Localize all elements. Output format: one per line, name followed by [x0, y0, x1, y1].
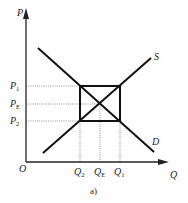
- price-label-p2: P2: [9, 115, 19, 127]
- quantity-axis-label: Q: [170, 169, 178, 180]
- price-axis-label: P: [16, 7, 23, 18]
- price-label-p1: P1: [9, 80, 19, 92]
- price-axis-arrow-icon: [23, 8, 29, 19]
- quantity-label-q1: Q1: [114, 166, 124, 178]
- supply-label: S: [154, 51, 159, 62]
- demand-curve: [38, 48, 154, 152]
- price-label-pe: PE: [9, 98, 20, 110]
- supply-demand-diagram: P Q O S D P1 PE P2 Q2 QE Q1 a): [0, 0, 188, 203]
- origin-label: O: [19, 163, 26, 174]
- quantity-label-qe: QE: [94, 166, 105, 178]
- quantity-label-q2: Q2: [74, 166, 84, 178]
- figure-caption: a): [90, 186, 97, 196]
- supply-curve: [43, 58, 151, 153]
- demand-label: D: [151, 136, 160, 147]
- quantity-axis-arrow-icon: [158, 159, 169, 165]
